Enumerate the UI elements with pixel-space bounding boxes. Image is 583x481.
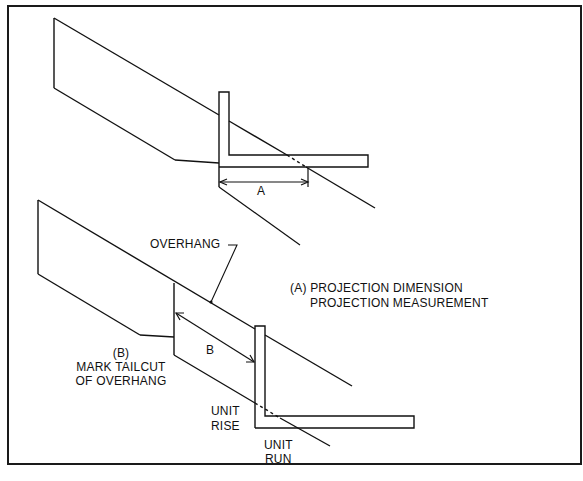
lower-rafter [38,200,498,446]
rafter-diagram [0,0,583,481]
legend-b-line3: OF OVERHANG [74,374,168,388]
dimension-b [176,313,254,362]
upper-rafter [54,18,375,245]
lower-framing-square [255,326,414,428]
dimension-a-label: A [257,184,265,198]
legend-a-line1: (A) PROJECTION DIMENSION [290,281,463,295]
legend-a-line2: PROJECTION MEASUREMENT [310,296,488,310]
legend-b-line1: (B) [78,346,164,360]
legend-b-line2: MARK TAILCUT [74,360,168,374]
upper-framing-square [219,92,368,187]
overhang-leader [211,245,237,302]
dimension-b-label: B [206,343,214,357]
overhang-label: OVERHANG [150,237,220,251]
